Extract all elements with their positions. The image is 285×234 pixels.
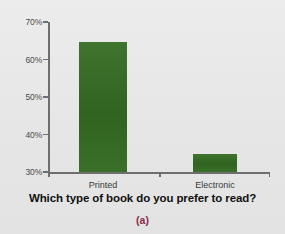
y-tick-mark <box>43 134 48 136</box>
category-label-electronic: Electronic <box>195 180 235 190</box>
y-axis-line <box>48 22 50 173</box>
category-label-printed: Printed <box>89 180 118 190</box>
panel-caption: (a) <box>0 214 285 226</box>
y-tick-label: 40% <box>26 130 42 140</box>
x-tick-mark <box>159 172 161 177</box>
y-tick-mark <box>43 21 48 23</box>
figure-panel: 30% 40% 50% 60% 70% Printed Electronic W… <box>0 0 285 234</box>
y-tick-label: 60% <box>26 55 42 65</box>
x-tick-mark <box>48 172 50 177</box>
y-tick-mark <box>43 59 48 61</box>
y-tick-label: 70% <box>26 17 42 27</box>
chart-title: Which type of book do you prefer to read… <box>0 192 285 204</box>
plot-area: 30% 40% 50% 60% 70% Printed Electronic <box>48 22 270 172</box>
y-tick-label: 50% <box>26 92 42 102</box>
x-tick-mark <box>269 172 271 177</box>
bar-electronic <box>193 154 237 172</box>
y-tick-mark <box>43 96 48 98</box>
y-tick-label: 30% <box>26 167 42 177</box>
bar-printed <box>79 42 127 172</box>
